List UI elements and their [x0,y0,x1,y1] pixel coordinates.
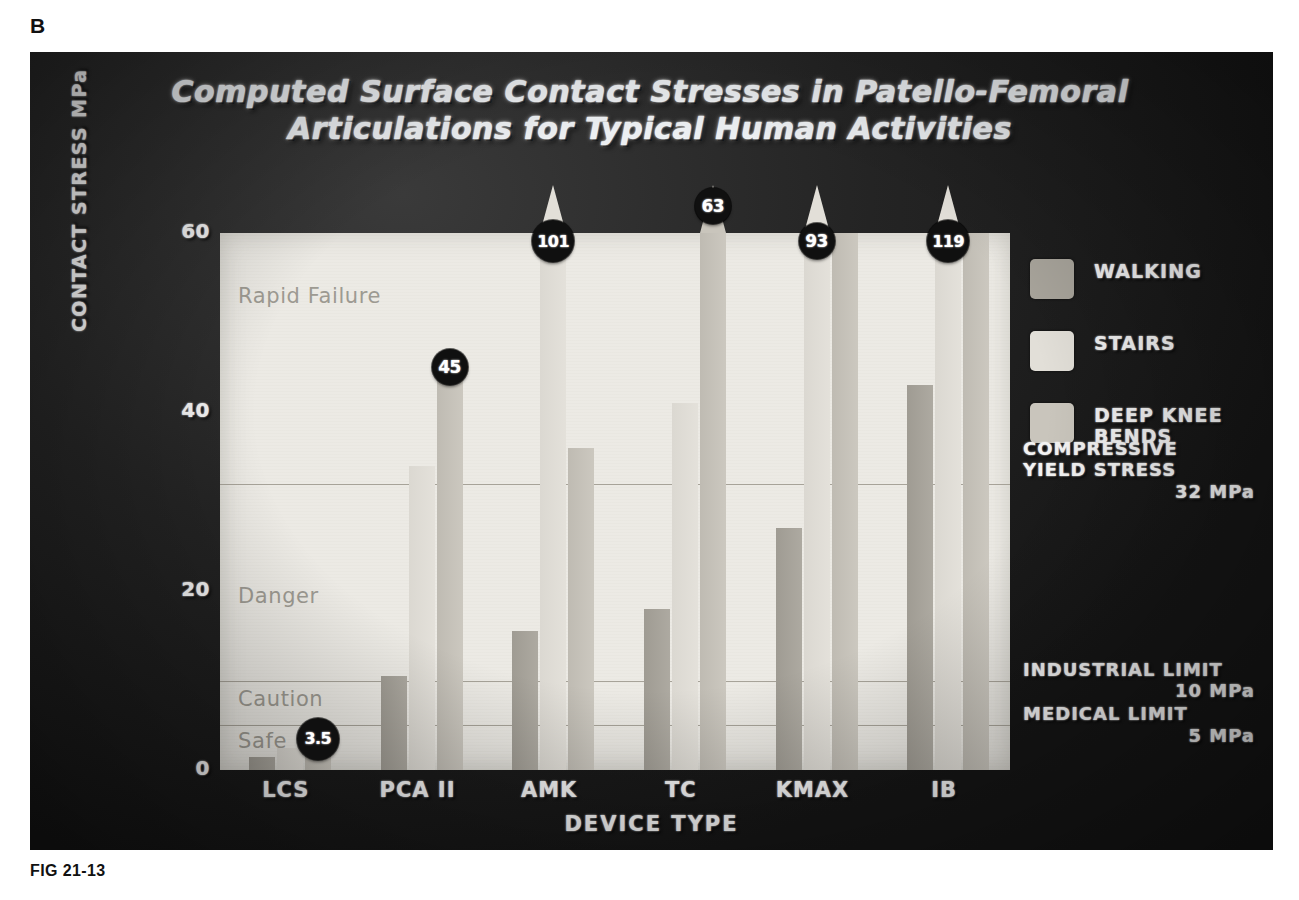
bar-ib-deep-knee-bends [963,233,989,770]
x-tick-ib: IB [878,778,1010,802]
plot-area: SafeCautionDangerRapid Failure [220,233,1010,770]
legend-label-dkb-line-1: DEEP KNEE [1094,404,1223,426]
x-tick-amk: AMK [483,778,615,802]
value-callout-tc: 63 [695,188,731,224]
y-tick-0: 0 [154,756,210,780]
zone-divider-line-32 [220,484,1010,485]
legend-item-walking: WALKING [1030,257,1265,301]
y-tick-60: 60 [154,219,210,243]
legend-swatch-walking [1030,259,1074,299]
chart-title-line-2: Articulations for Typical Human Activiti… [90,111,1210,148]
bar-amk-stairs [540,233,566,770]
annotation-industrial-label: INDUSTRIAL LIMIT [1023,659,1255,681]
zone-label-caution: Caution [238,687,323,711]
x-tick-lcs: LCS [220,778,352,802]
x-axis-title: DEVICE TYPE [30,812,1273,836]
zone-divider-line-5 [220,725,1010,726]
x-tick-kmax: KMAX [747,778,879,802]
bar-tc-deep-knee-bends [700,233,726,770]
y-axis-title: CONTACT STRESS MPa [68,52,90,332]
figure-panel: B Computed Surface Contact Stresses in P… [0,0,1299,900]
slide-image: Computed Surface Contact Stresses in Pat… [30,52,1273,850]
value-callout-lcs: 3.5 [297,718,339,760]
bar-amk-deep-knee-bends [568,448,594,770]
x-tick-pca-ii: PCA II [352,778,484,802]
bar-pca-ii-deep-knee-bends [437,367,463,770]
x-tick-tc: TC [615,778,747,802]
value-callout-pca-ii: 45 [432,349,468,385]
bar-ib-stairs [935,233,961,770]
bar-lcs-stairs [277,748,303,770]
y-tick-20: 20 [154,577,210,601]
annotation-medical-limit: MEDICAL LIMIT 5 MPa [1023,703,1255,746]
value-callout-amk: 101 [532,220,574,262]
bar-kmax-stairs [804,233,830,770]
zone-label-rapid-failure: Rapid Failure [238,284,381,308]
panel-letter: B [30,14,46,38]
bar-pca-ii-walking [381,676,407,770]
annotation-industrial-value: 10 MPa [1023,680,1255,702]
bar-ib-walking [907,385,933,770]
annotation-cys-value: 32 MPa [1023,481,1255,503]
legend-item-stairs: STAIRS [1030,329,1265,373]
y-axis-ticks: 0204060 [140,52,210,850]
bar-amk-walking [512,631,538,770]
legend-label-stairs: STAIRS [1094,333,1273,354]
annotation-cys-line-1: COMPRESSIVE [1023,438,1255,460]
bar-kmax-walking [776,528,802,770]
annotation-medical-label: MEDICAL LIMIT [1023,703,1255,725]
chart-title: Computed Surface Contact Stresses in Pat… [90,74,1210,147]
y-tick-40: 40 [154,398,210,422]
annotation-medical-value: 5 MPa [1023,725,1255,747]
annotation-industrial-limit: INDUSTRIAL LIMIT 10 MPa [1023,659,1255,702]
zone-divider-line-10 [220,681,1010,682]
legend-swatch-stairs [1030,331,1074,371]
value-callout-kmax: 93 [799,223,835,259]
bar-kmax-deep-knee-bends [832,233,858,770]
bar-tc-walking [644,609,670,770]
value-callout-ib: 119 [927,220,969,262]
figure-caption: FIG 21-13 [30,862,106,892]
bar-lcs-walking [249,757,275,770]
legend-label-walking: WALKING [1094,261,1273,282]
bar-tc-stairs [672,403,698,770]
annotation-compressive-yield-stress: COMPRESSIVE YIELD STRESS 32 MPa [1023,438,1255,503]
bar-pca-ii-stairs [409,466,435,770]
annotation-cys-line-2: YIELD STRESS [1023,459,1255,481]
chart-title-line-1: Computed Surface Contact Stresses in Pat… [171,74,1128,109]
zone-label-danger: Danger [238,584,319,608]
